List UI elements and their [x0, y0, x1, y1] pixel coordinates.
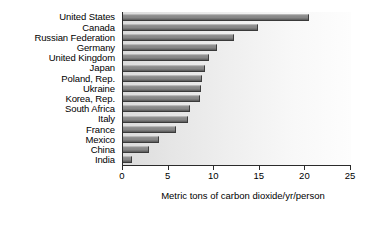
y-axis-category-labels: United StatesCanadaRussian FederationGer… [0, 12, 118, 165]
bar-row [123, 83, 351, 93]
bar-row [123, 114, 351, 124]
y-axis-label: Italy [0, 114, 118, 124]
tick-label: 15 [254, 171, 265, 181]
y-axis-label: France [0, 124, 118, 134]
bar-row [123, 94, 351, 104]
tick-label: 25 [345, 171, 356, 181]
bar [123, 44, 217, 51]
plot-area [122, 12, 351, 166]
bar-row [123, 53, 351, 63]
bar-chart: United StatesCanadaRussian FederationGer… [0, 0, 370, 226]
bar [123, 34, 234, 41]
y-axis-label: Poland, Rep. [0, 73, 118, 83]
bar [123, 14, 309, 21]
bar [123, 65, 205, 72]
bar-row [123, 134, 351, 144]
bar-row [123, 155, 351, 165]
bar-row [123, 32, 351, 42]
bar [123, 156, 132, 163]
bar-row [123, 63, 351, 73]
bar [123, 105, 190, 112]
y-axis-label: United States [0, 12, 118, 22]
bar-row [123, 73, 351, 83]
x-axis-title-text: Metric tons of carbon dioxide/yr/person [161, 190, 325, 201]
bar-row [123, 43, 351, 53]
bar-row [123, 104, 351, 114]
bar [123, 146, 149, 153]
bar-row [123, 22, 351, 32]
tick-label: 0 [119, 171, 124, 181]
bar [123, 75, 202, 82]
x-axis-tick-labels: 0510152025 [0, 171, 370, 185]
bar [123, 24, 258, 31]
y-axis-label: Canada [0, 22, 118, 32]
bar-row [123, 124, 351, 134]
bar [123, 136, 159, 143]
y-axis-label: India [0, 155, 118, 165]
bar-row [123, 145, 351, 155]
tick-label: 20 [299, 171, 310, 181]
bar-series [123, 12, 351, 165]
y-axis-label: Japan [0, 63, 118, 73]
bar [123, 54, 209, 61]
tick-label: 5 [165, 171, 170, 181]
bar [123, 85, 201, 92]
bar-row [123, 12, 351, 22]
x-axis-title: Metric tons of carbon dioxide/yr/person [0, 190, 370, 201]
tick-label: 10 [208, 171, 219, 181]
bar [123, 95, 200, 102]
bar [123, 116, 188, 123]
bar [123, 126, 176, 133]
